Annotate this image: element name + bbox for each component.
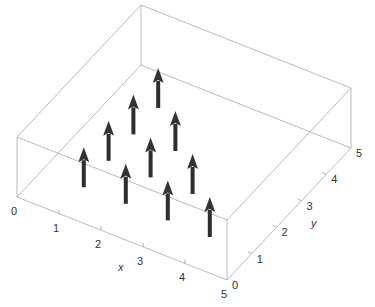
y-axis-label: y bbox=[310, 217, 318, 229]
arrow-head bbox=[162, 180, 173, 195]
arrow-head bbox=[103, 121, 114, 136]
vector-arrow bbox=[204, 197, 215, 237]
y-tick-label: 3 bbox=[306, 200, 312, 212]
vector-field-plot: 012345012345 x y bbox=[0, 0, 375, 307]
vector-arrow bbox=[103, 121, 114, 161]
arrow-head bbox=[78, 147, 89, 162]
vector-arrows bbox=[78, 68, 215, 237]
box-edge bbox=[141, 65, 351, 148]
box-edge bbox=[17, 5, 141, 137]
arrow-head bbox=[204, 197, 215, 212]
vector-arrow bbox=[187, 154, 198, 194]
y-tick-label: 0 bbox=[232, 279, 238, 291]
x-tick-label: 5 bbox=[221, 288, 227, 300]
y-tick bbox=[297, 199, 301, 201]
axis-ticks: 012345012345 bbox=[11, 147, 362, 300]
y-tick bbox=[248, 252, 252, 254]
x-tick-label: 0 bbox=[11, 205, 17, 217]
vector-arrow bbox=[78, 147, 89, 187]
vector-arrow bbox=[170, 111, 181, 151]
arrow-head bbox=[187, 154, 198, 169]
vector-arrow bbox=[120, 164, 131, 204]
box-edge bbox=[17, 137, 227, 220]
y-tick bbox=[273, 225, 277, 227]
x-tick-label: 4 bbox=[179, 271, 185, 283]
arrow-head bbox=[120, 164, 131, 179]
box-edge bbox=[227, 88, 351, 220]
box-edge bbox=[227, 148, 351, 280]
x-tick-label: 1 bbox=[53, 222, 59, 234]
x-axis-label: x bbox=[117, 261, 124, 273]
arrow-head bbox=[145, 137, 156, 152]
y-tick-label: 2 bbox=[282, 226, 288, 238]
y-tick-label: 4 bbox=[331, 173, 337, 185]
x-tick-label: 2 bbox=[95, 238, 101, 250]
plot-box bbox=[17, 5, 351, 280]
box-edge bbox=[141, 5, 351, 88]
vector-arrow bbox=[162, 180, 173, 220]
vector-arrow bbox=[145, 137, 156, 177]
y-tick-label: 5 bbox=[356, 147, 362, 159]
y-tick-label: 1 bbox=[257, 253, 263, 265]
x-tick-label: 3 bbox=[137, 255, 143, 267]
arrow-head bbox=[128, 94, 139, 109]
arrow-head bbox=[170, 111, 181, 126]
vector-arrow bbox=[128, 94, 139, 134]
vector-arrow bbox=[153, 68, 164, 108]
y-tick bbox=[322, 172, 326, 174]
